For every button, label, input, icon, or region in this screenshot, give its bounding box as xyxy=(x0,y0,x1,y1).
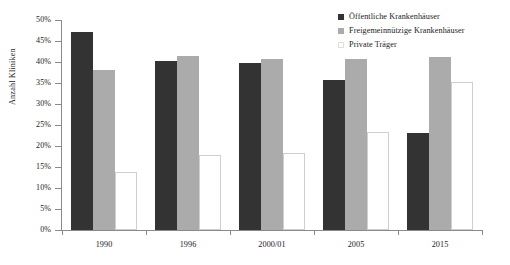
x-tick-mark xyxy=(482,230,483,235)
legend-swatch-public-icon xyxy=(338,14,344,20)
y-tick-label: 40% xyxy=(0,57,51,66)
y-tick-label: 5% xyxy=(0,204,51,213)
legend-label-public: Öffentliche Krankenhäuser xyxy=(349,12,440,22)
y-tick-label: 35% xyxy=(0,78,51,87)
x-tick-mark xyxy=(146,230,147,235)
chart-legend: Öffentliche Krankenhäuser Freigemeinnütz… xyxy=(338,10,508,52)
x-axis-line xyxy=(55,230,483,231)
x-tick-label: 2005 xyxy=(314,240,398,249)
bar-public-1996 xyxy=(155,61,177,230)
y-tick-label: 25% xyxy=(0,120,51,129)
x-tick-label: 1990 xyxy=(62,240,146,249)
legend-label-nonprofit: Freigemeinnützige Krankenhäuser xyxy=(349,26,465,36)
x-tick-mark xyxy=(314,230,315,235)
legend-label-private: Private Träger xyxy=(349,40,397,50)
x-tick-label: 2000/01 xyxy=(230,240,314,249)
x-tick-mark xyxy=(230,230,231,235)
y-tick-label: 10% xyxy=(0,183,51,192)
x-tick-mark xyxy=(62,230,63,235)
y-tick-mark xyxy=(55,20,61,21)
legend-item-public: Öffentliche Krankenhäuser xyxy=(338,10,508,23)
y-tick-label: 20% xyxy=(0,141,51,150)
bar-public-1990 xyxy=(71,32,93,230)
bar-nonprofit-1996 xyxy=(177,56,199,230)
y-tick-mark xyxy=(55,41,61,42)
y-tick-label: 30% xyxy=(0,99,51,108)
y-tick-mark xyxy=(55,209,61,210)
y-tick-mark xyxy=(55,188,61,189)
bar-private-1990 xyxy=(115,172,137,230)
y-tick-mark xyxy=(55,230,61,231)
y-axis-line xyxy=(61,20,62,231)
legend-item-private: Private Träger xyxy=(338,38,508,51)
bar-nonprofit-1990 xyxy=(93,70,115,230)
y-tick-mark xyxy=(55,104,61,105)
y-tick-mark xyxy=(55,167,61,168)
bar-public-2015 xyxy=(407,133,429,230)
bar-private-2000-01 xyxy=(283,153,305,230)
legend-swatch-nonprofit-icon xyxy=(338,28,344,34)
bar-private-2005 xyxy=(367,132,389,230)
bar-chart: Öffentliche Krankenhäuser Freigemeinnütz… xyxy=(0,0,510,265)
y-tick-mark xyxy=(55,83,61,84)
bar-nonprofit-2015 xyxy=(429,57,451,230)
x-tick-label: 1996 xyxy=(146,240,230,249)
bar-private-2015 xyxy=(451,82,473,230)
y-tick-label: 0% xyxy=(0,225,51,234)
y-tick-mark xyxy=(55,125,61,126)
bar-nonprofit-2000-01 xyxy=(261,59,283,230)
y-tick-label: 50% xyxy=(0,15,51,24)
y-tick-label: 45% xyxy=(0,36,51,45)
y-tick-mark xyxy=(55,62,61,63)
bar-public-2000-01 xyxy=(239,63,261,230)
x-tick-label: 2015 xyxy=(398,240,482,249)
y-tick-label: 15% xyxy=(0,162,51,171)
legend-item-nonprofit: Freigemeinnützige Krankenhäuser xyxy=(338,24,508,37)
bar-nonprofit-2005 xyxy=(345,59,367,230)
legend-swatch-private-icon xyxy=(338,42,344,48)
x-tick-mark xyxy=(398,230,399,235)
y-tick-mark xyxy=(55,146,61,147)
bar-public-2005 xyxy=(323,80,345,230)
bar-private-1996 xyxy=(199,155,221,230)
